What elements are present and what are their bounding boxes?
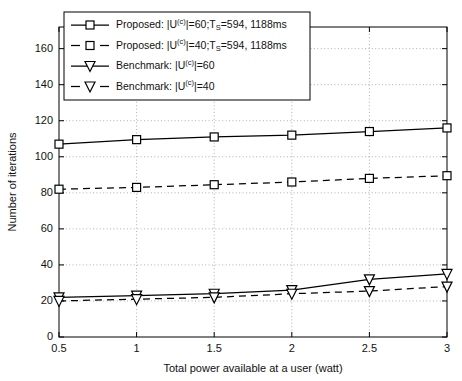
legend-label-0: Proposed: |U(c)|=60;TS=594, 1188ms [116,16,287,32]
y-tick-label: 80 [41,186,53,198]
y-tick-label: 120 [35,114,53,126]
y-tick-label: 20 [41,294,53,306]
x-tick-label: 1 [134,342,140,354]
y-tick-label: 40 [41,258,53,270]
x-tick-label: 2 [289,342,295,354]
y-axis-label: Number of iterations [6,132,18,232]
x-tick-label: 3 [444,342,450,354]
y-tick-label: 160 [35,42,53,54]
y-tick-label: 0 [47,330,53,342]
y-tick-label: 140 [35,78,53,90]
x-tick-label: 1.5 [207,342,222,354]
y-tick-label: 60 [41,222,53,234]
data-point-s0-1 [133,136,141,144]
x-tick-label: 2.5 [362,342,377,354]
data-point-s0-4 [365,128,373,136]
data-point-s1-5 [443,172,451,180]
data-point-s0-5 [443,124,451,132]
data-point-s1-1 [133,183,141,191]
data-point-s1-0 [55,185,63,193]
legend-label-3: Benchmark: |U(c)|=40 [116,78,215,91]
y-tick-label: 100 [35,150,53,162]
data-point-s1-4 [365,174,373,182]
legend-label-2: Benchmark: |U(c)|=60 [116,57,215,70]
legend-marker-1 [86,42,94,50]
data-point-s0-3 [288,131,296,139]
legend-label-1: Proposed: |U(c)|=40;TS=594, 1188ms [116,37,287,53]
data-point-s0-2 [210,133,218,141]
legend-marker-0 [86,21,94,29]
x-axis-label: Total power available at a user (watt) [163,362,342,374]
chart-svg: 0204060801001201401600.511.522.53Total p… [0,0,462,381]
data-point-s1-2 [210,181,218,189]
x-tick-label: 0.5 [51,342,66,354]
data-point-s0-0 [55,140,63,148]
figure-chart: 0204060801001201401600.511.522.53Total p… [0,0,462,381]
data-point-s1-3 [288,178,296,186]
